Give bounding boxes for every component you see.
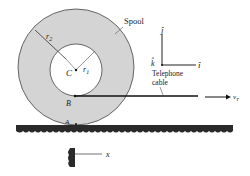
center-point	[75, 69, 77, 71]
center-label: C	[66, 68, 73, 78]
cable-label-line2: cable	[152, 78, 168, 87]
point-b-label: B	[66, 99, 71, 108]
axis-k-label: k̂	[151, 57, 155, 68]
reference-wall	[68, 148, 75, 167]
velocity-label: vT	[233, 93, 240, 102]
axis-i-label: î	[198, 60, 201, 70]
ground-surface	[16, 125, 233, 133]
point-a-label: A	[64, 118, 70, 126]
cable-leader-line	[160, 87, 163, 95]
spool-label: Spool	[124, 16, 144, 26]
position-label: x	[105, 150, 110, 159]
cable-label-line1: Telephone	[152, 69, 184, 78]
axis-j-label: ĵ	[160, 25, 164, 35]
spool-diagram: C r1 r2 Spool B vT A ĵ î k̂ Telephone ca…	[0, 0, 250, 176]
axis-origin	[161, 64, 163, 66]
velocity-arrow-head	[226, 95, 231, 100]
point-a	[75, 123, 77, 125]
